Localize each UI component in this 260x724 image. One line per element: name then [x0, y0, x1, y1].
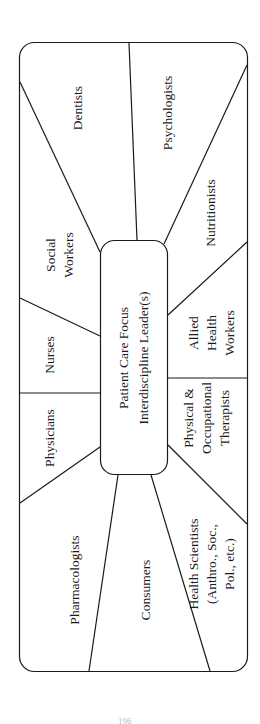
divider-dentists-psychologists: [129, 43, 137, 240]
segment-label: Consumers: [138, 560, 153, 621]
segment-physical-occupational-therapists: Physical & Occupational Therapists: [181, 382, 232, 454]
segment-label: Pol., etc.): [222, 538, 237, 590]
segment-label: Dentists: [70, 86, 85, 130]
divider-physical-health-scientists: [168, 445, 247, 524]
center-label: Patient Care Focus Interdiscipline Leade…: [116, 291, 151, 424]
segment-label: Social: [43, 238, 58, 272]
interdisciplinary-team-diagram: Patient Care Focus Interdiscipline Leade…: [0, 0, 260, 724]
center-label-line-2: Interdiscipline Leader(s): [136, 291, 151, 424]
center-label-line-1: Patient Care Focus: [116, 307, 131, 409]
segment-label: (Anthro., Soc.,: [204, 524, 219, 604]
segment-nurses: Nurses: [42, 336, 57, 374]
segment-label: Psychologists: [160, 76, 175, 150]
segment-psychologists: Psychologists: [160, 76, 175, 150]
center-box: [101, 241, 168, 475]
segment-dentists: Dentists: [70, 86, 85, 130]
segment-label: Health: [204, 315, 219, 351]
page-number: 196: [118, 716, 132, 724]
divider-physicians-pharmacologists: [20, 447, 100, 503]
segment-label: Physicians: [42, 409, 57, 467]
segment-label: Physical &: [181, 388, 196, 448]
segment-consumers: Consumers: [138, 560, 153, 621]
divider-social-workers-nurses: [20, 298, 100, 336]
divider-pharmacologists-consumers: [89, 475, 118, 671]
segment-label: Occupational: [199, 382, 214, 454]
segment-label: Workers: [222, 310, 237, 355]
segment-social-workers: Social Workers: [43, 232, 76, 277]
segment-nutritionists: Nutritionists: [203, 179, 218, 247]
segment-label: Health Scientists: [186, 518, 201, 609]
segment-pharmacologists: Pharmacologists: [67, 535, 82, 624]
divider-consumers-health-scientists: [151, 475, 210, 671]
segment-label: Therapists: [217, 390, 232, 446]
divider-dentists-social-workers: [20, 82, 100, 252]
segment-label: Pharmacologists: [67, 535, 82, 624]
segment-label: Nurses: [42, 336, 57, 374]
segment-label: Workers: [61, 232, 76, 277]
segment-label: Nutritionists: [203, 179, 218, 247]
segment-physicians: Physicians: [42, 409, 57, 467]
segment-allied-health-workers: Allied Health Workers: [186, 310, 237, 355]
segment-health-scientists: Health Scientists (Anthro., Soc., Pol., …: [186, 518, 237, 609]
divider-nutritionists-allied: [168, 242, 247, 315]
segment-label: Allied: [186, 316, 201, 350]
